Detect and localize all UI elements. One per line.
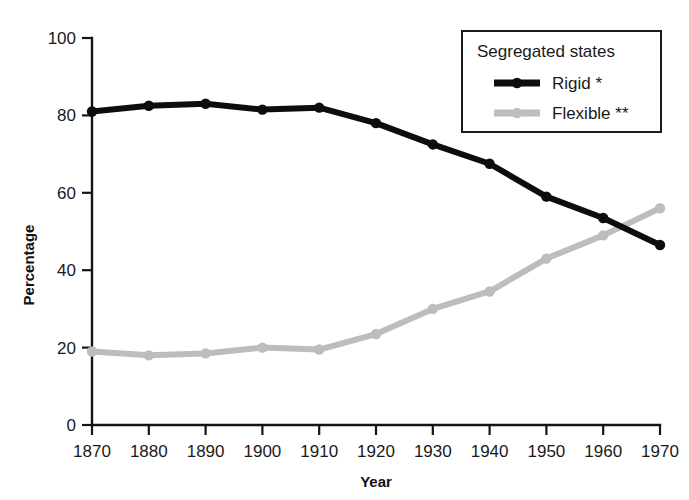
data-point <box>144 101 154 111</box>
y-tick-label: 100 <box>48 29 76 48</box>
x-tick-label: 1870 <box>73 442 111 461</box>
x-tick-label: 1970 <box>641 442 679 461</box>
data-point <box>314 102 324 112</box>
y-axis-tick-labels: 020406080100 <box>48 29 76 435</box>
data-point <box>484 159 494 169</box>
data-point <box>598 230 608 240</box>
data-point <box>314 344 324 354</box>
y-tick-label: 40 <box>57 261 76 280</box>
chart-container: Percentage Year 020406080100 18701880189… <box>0 0 689 500</box>
y-axis-title: Percentage <box>20 225 37 306</box>
y-axis-ticks <box>82 38 92 425</box>
x-tick-label: 1890 <box>187 442 225 461</box>
data-point <box>200 348 210 358</box>
x-tick-label: 1880 <box>130 442 168 461</box>
legend-swatch-marker <box>512 78 522 88</box>
x-axis-tick-labels: 1870188018901900191019201930194019501960… <box>73 442 679 461</box>
y-tick-label: 20 <box>57 339 76 358</box>
data-point <box>655 240 665 250</box>
data-point <box>257 342 267 352</box>
y-tick-label: 60 <box>57 184 76 203</box>
data-point <box>144 350 154 360</box>
x-tick-label: 1940 <box>471 442 509 461</box>
data-point <box>484 286 494 296</box>
data-point <box>87 346 97 356</box>
x-axis-ticks <box>92 425 660 435</box>
y-tick-label: 80 <box>57 106 76 125</box>
line-chart: Percentage Year 020406080100 18701880189… <box>0 0 689 500</box>
legend: Segregated states Rigid *Flexible ** <box>462 31 661 132</box>
x-tick-label: 1950 <box>527 442 565 461</box>
legend-swatch-marker <box>512 108 522 118</box>
data-point <box>541 191 551 201</box>
data-point <box>371 329 381 339</box>
x-tick-label: 1920 <box>357 442 395 461</box>
data-point <box>428 304 438 314</box>
data-point <box>655 203 665 213</box>
series-flexible <box>87 203 665 360</box>
x-axis-title: Year <box>360 473 392 490</box>
data-point <box>87 106 97 116</box>
x-tick-label: 1930 <box>414 442 452 461</box>
data-point <box>257 104 267 114</box>
legend-item-label: Rigid * <box>552 74 602 93</box>
data-point <box>200 99 210 109</box>
x-tick-label: 1910 <box>300 442 338 461</box>
data-series-layer <box>87 99 665 361</box>
legend-title: Segregated states <box>477 42 615 61</box>
x-tick-label: 1900 <box>243 442 281 461</box>
data-point <box>428 139 438 149</box>
x-tick-label: 1960 <box>584 442 622 461</box>
legend-item-label: Flexible ** <box>552 104 629 123</box>
data-point <box>598 213 608 223</box>
data-point <box>541 253 551 263</box>
data-point <box>371 118 381 128</box>
y-tick-label: 0 <box>67 416 76 435</box>
